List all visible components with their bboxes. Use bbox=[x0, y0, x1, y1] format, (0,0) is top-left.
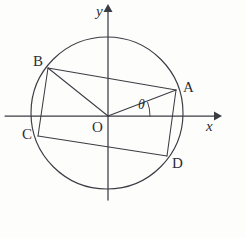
x-axis-arrow-icon bbox=[214, 112, 222, 121]
point-label-c: C bbox=[22, 127, 32, 142]
circle-outline bbox=[31, 37, 183, 189]
chord-c-d bbox=[38, 136, 167, 156]
radius-o-b bbox=[48, 68, 108, 116]
chord-b-a bbox=[48, 68, 176, 90]
point-label-d: D bbox=[172, 156, 183, 171]
angle-theta-arc bbox=[148, 102, 150, 116]
angle-theta-label: θ bbox=[138, 98, 145, 112]
point-label-a: A bbox=[183, 80, 194, 95]
y-axis-arrow-icon bbox=[104, 4, 113, 12]
origin-label: O bbox=[92, 120, 103, 135]
point-label-b: B bbox=[33, 54, 43, 69]
x-axis-label: x bbox=[206, 119, 213, 134]
y-axis-label: y bbox=[96, 4, 103, 19]
geometry-figure: A B C D O x y θ bbox=[0, 0, 245, 238]
chord-a-d bbox=[167, 90, 176, 156]
